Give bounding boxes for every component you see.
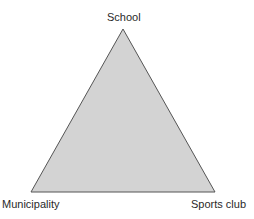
vertex-label-municipality: Municipality bbox=[2, 198, 59, 210]
vertex-label-school: School bbox=[107, 11, 141, 23]
vertex-label-sports-club: Sports club bbox=[191, 198, 246, 210]
triangle-shape bbox=[31, 29, 215, 192]
triangle-diagram bbox=[0, 0, 254, 219]
